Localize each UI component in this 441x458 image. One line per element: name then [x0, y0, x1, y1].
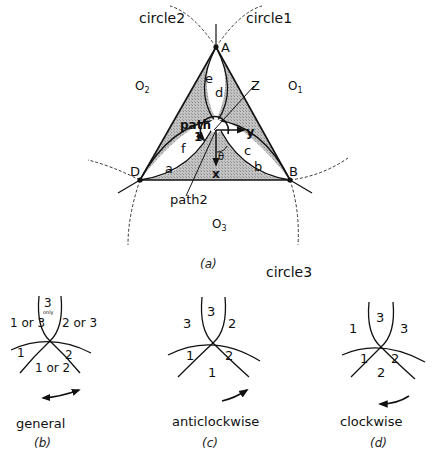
point-D-label: D: [130, 164, 140, 179]
circle-dashed-right: [290, 158, 348, 180]
arc-c-horizontal: [168, 345, 260, 361]
b-region-left: 1: [17, 346, 25, 360]
anticlockwise-arrow-icon: [222, 390, 247, 401]
b-title: general: [16, 416, 65, 431]
region-a-label: a: [165, 161, 173, 176]
c-region-top: 3: [207, 304, 215, 319]
point-A-label: A: [221, 40, 230, 55]
path1-label-line2: 1: [194, 130, 202, 144]
b-region-top-note: only: [43, 309, 54, 316]
point-Z-label: Z: [251, 78, 260, 93]
figure-a: circle2 circle1 circle3 A D B Z O2 O1 O3…: [88, 6, 348, 280]
circle3-dashed-left: [128, 180, 140, 245]
d-region-upper-right: 3: [400, 321, 408, 336]
b-region-top: 3: [44, 296, 52, 310]
curve-d-right: [351, 302, 394, 377]
center-O2-label: O2: [135, 79, 150, 95]
circle2-label: circle2: [139, 10, 185, 26]
c-region-upper-left: 3: [183, 316, 191, 331]
d-region-left: 1: [360, 351, 368, 366]
circle1-label: circle1: [246, 10, 292, 26]
center-O3-label: O3: [212, 217, 227, 233]
d-title: clockwise: [340, 414, 402, 429]
d-region-upper-left: 1: [349, 321, 357, 336]
caption-d: (d): [370, 436, 387, 450]
caption-b: (b): [34, 436, 51, 450]
figure-d: 3 1 3 1 2 2 clockwise (d): [340, 302, 425, 450]
caption-c: (c): [202, 436, 218, 450]
b-region-bottom: 1 or 2: [35, 361, 70, 375]
c-region-upper-right: 2: [228, 316, 236, 331]
figure-b: 3 only 1 or 3 2 or 3 1 2 1 or 2 general …: [10, 296, 97, 450]
c-region-bottom: 1: [208, 365, 216, 380]
b-region-right: 2: [65, 348, 73, 362]
caption-a: (a): [200, 257, 217, 271]
figure-c: 3 3 2 1 2 1 anticlockwise (c): [168, 297, 260, 450]
d-region-bottom: 2: [377, 365, 385, 380]
center-O1-label: O1: [288, 79, 303, 95]
circle3-label: circle3: [266, 264, 312, 280]
double-arrow-icon: [43, 390, 79, 398]
path2-label: path2: [170, 192, 208, 207]
region-e-label: e: [205, 71, 213, 86]
point-A-dot: [213, 44, 218, 49]
point-B-label: B: [289, 164, 298, 179]
region-d-label: d: [215, 85, 223, 100]
region-f-label: f: [181, 141, 186, 156]
region-c-label: c: [244, 143, 251, 158]
clockwise-arrow-icon: [380, 396, 409, 404]
figure-canvas: circle2 circle1 circle3 A D B Z O2 O1 O3…: [0, 0, 441, 458]
theta-label: θ: [218, 151, 224, 162]
d-region-right: 2: [391, 351, 399, 366]
b-region-upper-left: 1 or 3: [10, 316, 45, 330]
axis-x-label: x: [212, 167, 220, 181]
b-region-upper-right: 2 or 3: [62, 316, 97, 330]
circle3-dashed-right: [290, 180, 298, 245]
d-region-top: 3: [376, 310, 384, 325]
axis-y-label: y: [246, 124, 255, 139]
c-region-right: 2: [225, 348, 233, 363]
c-title: anticlockwise: [172, 414, 259, 429]
region-b-label: b: [254, 159, 262, 174]
c-region-left: 1: [186, 348, 194, 363]
